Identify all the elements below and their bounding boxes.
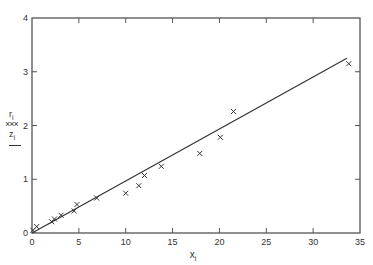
x-axis-label: xi: [190, 249, 197, 262]
y-tick-label: 3: [23, 67, 28, 77]
x-tick-label: 30: [308, 237, 318, 247]
legend-line-icon: [9, 145, 21, 146]
cross-marker-icon: [136, 183, 141, 188]
x-tick-label: 35: [355, 237, 365, 247]
cross-marker-icon: [346, 61, 351, 66]
scatter-chart: 0510152025303501234 xi: [0, 0, 373, 265]
cross-marker-icon: [197, 151, 202, 156]
x-tick-label: 0: [29, 237, 34, 247]
x-tick-label: 25: [261, 237, 271, 247]
legend-z: zi: [4, 130, 30, 146]
legend-cross-marker-icon: ×××: [5, 120, 18, 129]
cross-marker-icon: [123, 191, 128, 196]
cross-marker-icon: [74, 202, 79, 207]
y-tick-label: 1: [23, 174, 28, 184]
y-tick-label: 4: [23, 13, 28, 23]
cross-marker-icon: [34, 224, 39, 229]
x-tick-label: 10: [121, 237, 131, 247]
cross-marker-icon: [159, 164, 164, 169]
plot-frame: [32, 18, 360, 233]
y-axis-legend: ri ××× zi: [4, 110, 30, 146]
x-tick-label: 5: [76, 237, 81, 247]
cross-marker-icon: [218, 135, 223, 140]
axis-ticks: 0510152025303501234: [23, 13, 365, 247]
cross-marker-icon: [142, 173, 147, 178]
x-tick-label: 15: [168, 237, 178, 247]
y-tick-label: 0: [23, 228, 28, 238]
cross-marker-icon: [231, 109, 236, 114]
x-tick-label: 20: [214, 237, 224, 247]
plot-border: [32, 18, 360, 233]
legend-r: ri ×××: [4, 110, 30, 126]
